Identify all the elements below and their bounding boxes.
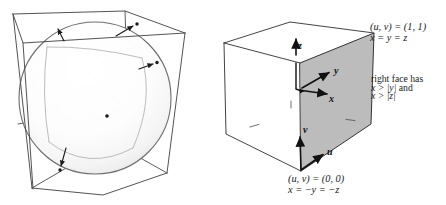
xyz-top-relation: x = y = z bbox=[370, 33, 426, 44]
corner-annotation-bottom: (u, v) = (0, 0) x = −y = −z bbox=[288, 173, 344, 195]
cube-center-dot bbox=[105, 114, 109, 118]
corner-annotation-top: (u, v) = (1, 1) x = y = z bbox=[370, 22, 426, 43]
u-param-label: u bbox=[327, 147, 333, 157]
figure-canvas: z y x v u (u, v) = (1, 1) x = y = z righ… bbox=[0, 0, 446, 205]
normal-arrow-dot bbox=[135, 22, 138, 25]
normal-arrow-dot bbox=[58, 168, 61, 171]
y-axis-label: y bbox=[334, 66, 338, 76]
uv-bottom-value: (u, v) = (0, 0) bbox=[288, 173, 344, 184]
uv-top-value: (u, v) = (1, 1) bbox=[370, 22, 426, 33]
x-axis-label: x bbox=[329, 94, 334, 104]
v-param-arrow bbox=[300, 137, 301, 169]
z-axis-label: z bbox=[298, 41, 302, 51]
shaded-right-face bbox=[300, 33, 374, 171]
sphere-in-cube-figure bbox=[13, 11, 185, 195]
sphere bbox=[19, 22, 171, 174]
right-face-note: right face has x > |y| and x > |z| bbox=[371, 75, 423, 101]
note-line-3: x > |z| bbox=[371, 92, 423, 101]
v-param-label: v bbox=[303, 125, 307, 135]
xyz-bottom-relation: x = −y = −z bbox=[288, 184, 344, 195]
normal-arrow-dot bbox=[155, 61, 158, 64]
